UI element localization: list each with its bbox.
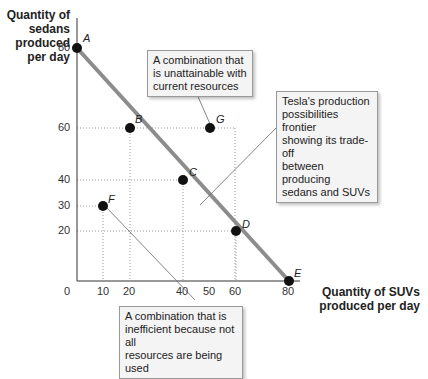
x-axis-label-line: Quantity of SUVs [319,285,420,299]
point-b [125,123,135,133]
callout-line: Tesla's production [282,95,372,108]
point-label-d: D [242,218,250,230]
x-tick: 0 [64,285,70,297]
x-tick: 80 [282,285,294,297]
point-c [178,175,188,185]
callout-line: showing its trade-off [282,134,372,160]
callout-line: A combination that is [125,310,237,323]
callout-frontier: Tesla's production possibilities frontie… [276,91,378,203]
y-tick: 60 [58,121,70,133]
y-tick: 80 [58,41,70,53]
point-d [231,226,241,236]
point-label-b: B [135,113,142,125]
point-a [72,43,82,53]
point-label-g: G [216,113,225,125]
x-tick: 40 [176,285,188,297]
leader-lines [107,92,278,300]
y-axis-label-line: sedans [7,22,70,36]
callout-line: current resources [153,80,247,93]
x-axis-label: Quantity of SUVs produced per day [319,285,420,313]
callout-line: possibilities frontier [282,108,372,134]
point-label-c: C [189,166,197,178]
x-axis-label-line: produced per day [319,299,420,313]
y-axis-label: Quantity of sedans produced per day [7,8,70,64]
callout-line: A combination that [153,54,247,67]
x-tick: 10 [97,285,109,297]
x-tick: 60 [229,285,241,297]
callout-line: is unattainable with [153,67,247,80]
callout-line: inefficient because not all [125,323,237,349]
point-label-e: E [294,267,301,279]
x-tick: 50 [203,285,215,297]
callout-line: resources are being used [125,349,237,375]
y-tick: 30 [58,199,70,211]
point-f [98,201,108,211]
point-g [205,123,215,133]
point-label-a: A [83,32,90,44]
y-tick: 40 [58,173,70,185]
callout-inefficient: A combination that is inefficient becaus… [119,306,243,379]
y-tick: 20 [58,224,70,236]
point-label-f: F [108,193,115,205]
callout-line: between producing [282,160,372,186]
x-tick: 20 [123,285,135,297]
callout-line: sedans and SUVs [282,186,372,199]
y-axis-label-line: Quantity of [7,8,70,22]
callout-unattainable: A combination that is unattainable with … [147,50,253,97]
